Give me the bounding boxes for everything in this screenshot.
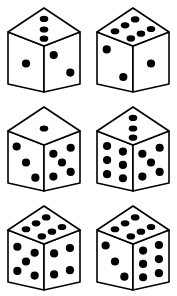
- pip-right-3: [58, 158, 66, 166]
- pip-top-3: [32, 220, 41, 226]
- pip-left-2: [111, 257, 119, 265]
- pip-left-1: [13, 142, 21, 150]
- dice-figure: [0, 0, 177, 296]
- pip-right-2: [67, 144, 75, 152]
- pip-right-2: [66, 244, 74, 252]
- pip-top-1: [128, 115, 137, 121]
- pip-top-6: [126, 36, 135, 42]
- die-drawing-top-right: [91, 2, 175, 96]
- pip-top-1: [40, 125, 49, 131]
- pip-right-3: [139, 259, 147, 267]
- pip-left-1: [101, 241, 109, 249]
- die-drawing-top-left: [2, 2, 86, 96]
- pip-right-1: [50, 150, 58, 158]
- pip-right-1: [147, 60, 155, 68]
- pip-top-5: [22, 226, 31, 232]
- dice-grid: [0, 0, 177, 296]
- pip-right-1: [138, 150, 146, 158]
- pip-top-3: [121, 220, 130, 226]
- pip-top-4: [136, 31, 145, 37]
- die-drawing-bottom-right: [91, 200, 175, 294]
- pip-left-5: [103, 170, 111, 178]
- pip-left-6: [119, 174, 127, 182]
- pip-left-4: [14, 267, 22, 275]
- pip-top-3: [121, 23, 130, 29]
- die-drawing-bottom-left: [2, 200, 86, 294]
- pip-right-4: [50, 172, 58, 180]
- pip-right-3: [147, 158, 155, 166]
- pip-top-1: [42, 214, 51, 220]
- pip-right-5: [67, 168, 75, 176]
- pip-right-1: [50, 51, 58, 59]
- pip-right-5: [155, 168, 163, 176]
- pip-right-4: [138, 172, 146, 180]
- pip-right-6: [155, 269, 163, 277]
- pip-right-4: [66, 266, 74, 274]
- pip-top-1: [131, 214, 140, 220]
- pip-top-3: [128, 135, 137, 141]
- pip-left-1: [103, 142, 111, 150]
- pip-left-1: [22, 60, 30, 68]
- pip-top-4: [136, 228, 145, 234]
- pip-right-2: [155, 241, 163, 249]
- pip-right-5: [139, 273, 147, 281]
- pip-top-2: [146, 26, 155, 32]
- pip-top-1: [131, 17, 140, 23]
- pip-left-1: [102, 46, 110, 54]
- pip-right-3: [50, 270, 58, 278]
- die-middle-left: [0, 99, 88, 197]
- pip-right-2: [155, 144, 163, 152]
- die-top-right: [89, 0, 177, 98]
- pip-top-5: [110, 28, 119, 34]
- die-bottom-right: [89, 198, 177, 296]
- pip-top-3: [40, 36, 49, 42]
- pip-left-3: [22, 257, 30, 265]
- pip-left-2: [119, 147, 127, 155]
- die-middle-right: [89, 99, 177, 197]
- pip-left-1: [14, 242, 22, 250]
- pip-top-4: [48, 228, 57, 234]
- pip-left-5: [31, 271, 39, 279]
- pip-right-1: [50, 249, 58, 257]
- pip-top-2: [58, 224, 67, 230]
- pip-top-2: [40, 27, 49, 33]
- die-drawing-middle-right: [91, 101, 175, 195]
- die-drawing-middle-left: [2, 101, 86, 195]
- pip-left-4: [119, 161, 127, 169]
- die-top-left: [0, 0, 88, 98]
- pip-top-6: [126, 233, 135, 239]
- pip-left-3: [32, 174, 40, 182]
- pip-top-2: [128, 125, 137, 131]
- pip-right-2: [66, 69, 74, 77]
- pip-right-4: [155, 255, 163, 263]
- pip-top-6: [38, 233, 47, 239]
- pip-left-3: [103, 156, 111, 164]
- pip-left-2: [31, 248, 39, 256]
- pip-right-1: [139, 246, 147, 254]
- pip-left-2: [119, 73, 127, 81]
- pip-top-5: [110, 226, 119, 232]
- die-bottom-left: [0, 198, 88, 296]
- pip-top-1: [40, 16, 49, 22]
- pip-top-2: [146, 224, 155, 230]
- pip-left-3: [120, 272, 128, 280]
- pip-left-2: [22, 158, 30, 166]
